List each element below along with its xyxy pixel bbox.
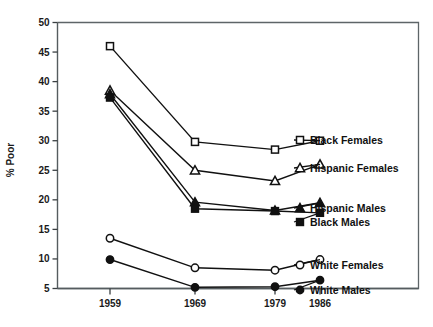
x-tick-label: 1986 bbox=[309, 298, 332, 309]
data-series-group bbox=[105, 43, 324, 291]
legend-label[interactable]: White Females bbox=[310, 259, 384, 271]
data-point-marker bbox=[107, 94, 114, 101]
data-point-marker bbox=[106, 256, 113, 263]
data-point-marker bbox=[107, 43, 114, 50]
y-tick-label: 50 bbox=[38, 17, 50, 28]
y-axis-title: % Poor bbox=[5, 143, 16, 178]
data-point-marker bbox=[271, 283, 278, 290]
chart-canvas: 5101520253035404550 1959196919791986 % P… bbox=[0, 0, 433, 327]
y-tick-label: 25 bbox=[38, 165, 50, 176]
y-tick-label: 10 bbox=[38, 253, 50, 264]
x-tick-label: 1959 bbox=[99, 298, 122, 309]
data-point-marker bbox=[106, 235, 113, 242]
data-point-marker bbox=[316, 277, 323, 284]
series-line bbox=[110, 238, 320, 270]
x-tick-label: 1969 bbox=[184, 298, 207, 309]
legend-marker-black-females bbox=[297, 137, 304, 144]
data-point-marker bbox=[272, 146, 279, 153]
y-tick-label: 30 bbox=[38, 135, 50, 146]
plot-frame bbox=[58, 23, 419, 289]
legend-marker-white-females bbox=[296, 261, 303, 268]
y-tick-label: 5 bbox=[44, 283, 50, 294]
data-point-marker bbox=[191, 284, 198, 291]
poverty-rate-line-chart: 5101520253035404550 1959196919791986 % P… bbox=[0, 0, 433, 327]
data-point-marker bbox=[272, 208, 279, 215]
legend-marker-white-males bbox=[296, 286, 303, 293]
legend-label[interactable]: Hispanic Males bbox=[310, 202, 386, 214]
legend-label[interactable]: Hispanic Females bbox=[310, 162, 399, 174]
series-line bbox=[110, 94, 320, 210]
legend-label[interactable]: Black Males bbox=[310, 216, 370, 228]
y-tick-label: 15 bbox=[38, 224, 50, 235]
legend-marker-black-males bbox=[297, 219, 304, 226]
data-point-marker bbox=[271, 266, 278, 273]
y-tick-label: 40 bbox=[38, 76, 50, 87]
x-tick-label: 1979 bbox=[264, 298, 287, 309]
data-point-marker bbox=[191, 264, 198, 271]
legend-label[interactable]: Black Females bbox=[310, 134, 383, 146]
y-tick-label: 20 bbox=[38, 194, 50, 205]
chart-legend: Black FemalesHispanic FemalesHispanic Ma… bbox=[294, 134, 399, 296]
y-tick-label: 35 bbox=[38, 106, 50, 117]
legend-label[interactable]: White Males bbox=[310, 284, 371, 296]
series-line bbox=[110, 98, 320, 213]
y-axis-ticks: 5101520253035404550 bbox=[38, 17, 57, 294]
series-line bbox=[110, 90, 320, 180]
data-point-marker bbox=[192, 205, 199, 212]
y-tick-label: 45 bbox=[38, 47, 50, 58]
data-point-marker bbox=[192, 138, 199, 145]
series-line bbox=[110, 260, 320, 288]
